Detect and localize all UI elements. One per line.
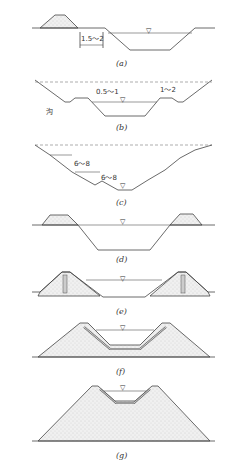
dimension-b2: 1～2 [160, 86, 176, 94]
label-a: (a) [116, 59, 127, 68]
panel-c: 6～8 6～8 ▽ (c) [35, 145, 212, 207]
svg-text:▽: ▽ [120, 324, 126, 332]
svg-text:▽: ▽ [120, 218, 126, 226]
dimension-a: 1.5～2 [81, 35, 104, 43]
label-e: (e) [116, 307, 127, 316]
svg-text:▽: ▽ [146, 27, 152, 35]
svg-text:▽: ▽ [120, 182, 126, 190]
panel-a: 1.5～2 ▽ (a) [32, 15, 215, 68]
dimension-c2: 6～8 [101, 174, 117, 182]
svg-text:▽: ▽ [120, 96, 126, 104]
panel-d: ▽ (d) [32, 214, 215, 264]
label-g: (g) [116, 451, 127, 460]
panel-g: ▽ (g) [32, 384, 215, 460]
label-f: (f) [116, 367, 125, 376]
svg-text:▽: ▽ [120, 275, 126, 283]
label-c: (c) [116, 198, 127, 207]
svg-text:▽: ▽ [120, 384, 126, 392]
ditch-annotation: 沟 [46, 107, 53, 116]
canal-cross-sections-diagram: 1.5～2 ▽ (a) 0.5～1 1～2 沟 ▽ (b) 6～8 6～8 ▽ … [0, 0, 231, 475]
label-d: (d) [116, 255, 127, 264]
panel-e: ▽ (e) [32, 272, 215, 316]
dimension-b1: 0.5～1 [96, 88, 119, 96]
panel-f: ▽ (f) [32, 323, 215, 376]
label-b: (b) [116, 123, 127, 132]
panel-b: 0.5～1 1～2 沟 ▽ (b) [35, 80, 212, 132]
dimension-c1: 6～8 [74, 160, 90, 168]
